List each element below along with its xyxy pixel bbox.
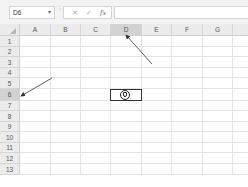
gridline	[20, 110, 248, 111]
drag-handle-icon[interactable]: ⋮	[57, 7, 61, 18]
gridline	[20, 152, 248, 153]
arrow-to-column-d-icon	[126, 35, 152, 64]
gridline	[20, 46, 248, 47]
column-header-E[interactable]: E	[142, 24, 172, 36]
gridline	[141, 36, 142, 175]
column-header-B[interactable]: B	[51, 24, 81, 36]
check-icon[interactable]: ✓	[86, 9, 92, 17]
cursor-icon	[120, 90, 130, 100]
gridline	[20, 121, 248, 122]
column-header-C[interactable]: C	[81, 24, 111, 36]
row-header-12[interactable]: 12	[0, 153, 20, 164]
row-header-4[interactable]: 4	[0, 68, 20, 78]
gridline	[20, 174, 248, 175]
column-header-H[interactable]	[233, 24, 248, 36]
gridline	[110, 36, 111, 175]
gridline	[202, 36, 203, 175]
row-header-8[interactable]: 8	[0, 111, 20, 122]
gridline	[232, 36, 233, 175]
row-header-11[interactable]: 11	[0, 143, 20, 153]
row-header-6[interactable]: 6	[0, 89, 20, 101]
column-header-F[interactable]: F	[172, 24, 203, 36]
name-box-value: D6	[13, 9, 21, 16]
cancel-icon[interactable]: ✕	[72, 9, 78, 17]
gridline	[20, 163, 248, 164]
gridline	[80, 36, 81, 175]
gridline	[20, 56, 248, 57]
formula-bar: D6 ▾ ⋮ ✕ ✓ fx	[0, 0, 248, 24]
gridline	[50, 36, 51, 175]
formula-buttons: ✕ ✓ fx	[63, 6, 112, 19]
select-all-button[interactable]	[0, 24, 20, 36]
formula-input[interactable]	[114, 6, 248, 19]
select-all-icon	[10, 28, 16, 34]
row-header-9[interactable]: 9	[0, 122, 20, 132]
gridline	[20, 131, 248, 132]
row-header-7[interactable]: 7	[0, 101, 20, 111]
gridline	[20, 67, 248, 68]
chevron-down-icon[interactable]: ▾	[48, 8, 51, 15]
row-header-10[interactable]: 10	[0, 132, 20, 143]
column-header-row: A B C D E F G	[0, 24, 248, 36]
column-header-G[interactable]: G	[203, 24, 233, 36]
column-header-D[interactable]: D	[111, 24, 142, 36]
row-header-3[interactable]: 3	[0, 57, 20, 68]
row-header-1[interactable]: 1	[0, 36, 20, 47]
gridline	[20, 77, 248, 78]
mouse-icon	[123, 92, 127, 97]
row-header-13[interactable]: 13	[0, 164, 20, 175]
gridline	[171, 36, 172, 175]
gridline	[20, 142, 248, 143]
row-header-5[interactable]: 5	[0, 78, 20, 89]
arrow-to-row-6-icon	[21, 78, 52, 96]
insert-function-icon[interactable]: fx	[100, 9, 106, 17]
row-header-2[interactable]: 2	[0, 47, 20, 57]
column-header-A[interactable]: A	[20, 24, 51, 36]
name-box[interactable]: D6 ▾	[9, 6, 55, 19]
